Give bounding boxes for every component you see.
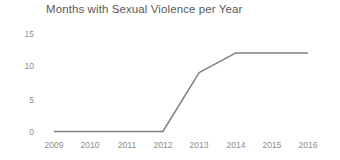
line-chart: Months with Sexual Violence per Year 15 … <box>0 0 340 160</box>
x-tick-label-2016: 2016 <box>288 140 328 150</box>
x-tick-label-2011: 2011 <box>107 140 147 150</box>
x-tick-label-2009: 2009 <box>34 140 74 150</box>
x-tick-label-2014: 2014 <box>216 140 256 150</box>
x-tick-label-2013: 2013 <box>179 140 219 150</box>
x-tick-label-2015: 2015 <box>252 140 292 150</box>
data-series-line <box>54 53 308 131</box>
x-tick-label-2012: 2012 <box>143 140 183 150</box>
plot-area <box>0 0 340 160</box>
x-tick-label-2010: 2010 <box>70 140 110 150</box>
